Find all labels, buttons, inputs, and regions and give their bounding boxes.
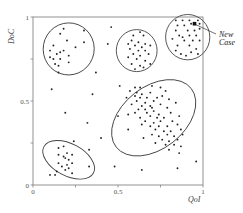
x-tick-label: 1 bbox=[201, 188, 205, 196]
data-point bbox=[195, 35, 197, 37]
data-point bbox=[144, 120, 146, 122]
data-point bbox=[68, 159, 70, 161]
outlier-point bbox=[141, 169, 143, 171]
data-point bbox=[168, 98, 170, 100]
data-point bbox=[137, 108, 139, 110]
data-point bbox=[194, 29, 196, 31]
data-point bbox=[139, 55, 141, 57]
data-point bbox=[117, 115, 119, 117]
data-point bbox=[158, 135, 160, 137]
data-point bbox=[197, 19, 199, 21]
data-point bbox=[58, 147, 60, 149]
data-point bbox=[183, 40, 185, 42]
data-point bbox=[139, 65, 141, 67]
data-point bbox=[63, 155, 65, 157]
data-point bbox=[71, 162, 73, 164]
data-point bbox=[144, 43, 146, 45]
data-point bbox=[156, 117, 158, 119]
data-point bbox=[126, 97, 128, 99]
data-point bbox=[132, 53, 134, 55]
data-point bbox=[64, 169, 66, 171]
data-point bbox=[141, 46, 143, 48]
data-point bbox=[144, 60, 146, 62]
data-point bbox=[178, 152, 180, 154]
data-point bbox=[153, 110, 155, 112]
data-point bbox=[144, 108, 146, 110]
data-point bbox=[134, 68, 136, 70]
data-point bbox=[195, 48, 197, 50]
data-point bbox=[136, 92, 138, 94]
data-point bbox=[165, 144, 167, 146]
cluster-ellipse-top-middle bbox=[116, 30, 157, 72]
x-tick-label: 0 bbox=[31, 188, 35, 196]
data-point bbox=[146, 97, 148, 99]
data-point bbox=[199, 40, 201, 42]
data-point bbox=[156, 97, 158, 99]
data-point bbox=[129, 90, 131, 92]
data-point bbox=[59, 51, 61, 53]
data-point bbox=[52, 45, 54, 47]
data-point bbox=[137, 50, 139, 52]
data-point bbox=[56, 53, 58, 55]
data-point bbox=[143, 35, 145, 37]
data-point bbox=[178, 115, 180, 117]
data-point bbox=[131, 40, 133, 42]
data-point bbox=[144, 102, 146, 104]
data-point bbox=[170, 112, 172, 114]
y-tick-label: 1 bbox=[26, 14, 30, 22]
data-point bbox=[68, 55, 70, 57]
data-point bbox=[129, 48, 131, 50]
data-points bbox=[49, 19, 201, 175]
data-point bbox=[197, 53, 199, 55]
data-point bbox=[75, 46, 77, 48]
data-point bbox=[182, 19, 184, 21]
x-axis-label: QoI bbox=[188, 195, 201, 204]
data-point bbox=[160, 87, 162, 89]
data-point bbox=[63, 145, 65, 147]
data-point bbox=[166, 107, 168, 109]
data-point bbox=[71, 154, 73, 156]
annotation-label-line2: Case bbox=[219, 38, 235, 47]
outlier-point bbox=[195, 161, 197, 163]
data-point bbox=[58, 154, 60, 156]
data-point bbox=[134, 95, 136, 97]
data-point bbox=[54, 63, 56, 65]
data-point bbox=[134, 87, 136, 89]
outlier-point bbox=[95, 71, 97, 73]
cluster-ellipse-center-large bbox=[97, 64, 210, 172]
new-case-marker bbox=[193, 22, 197, 26]
data-point bbox=[146, 112, 148, 114]
data-point bbox=[49, 50, 51, 52]
x-tick-label: 0.5 bbox=[114, 188, 123, 196]
data-point bbox=[59, 58, 61, 60]
data-point bbox=[158, 113, 160, 115]
data-point bbox=[163, 130, 165, 132]
data-point bbox=[177, 24, 179, 26]
data-point bbox=[199, 28, 201, 30]
data-point bbox=[137, 41, 139, 43]
data-point bbox=[132, 35, 134, 37]
data-point bbox=[127, 129, 129, 131]
data-point bbox=[54, 174, 56, 176]
data-point bbox=[58, 65, 60, 67]
data-point bbox=[170, 130, 172, 132]
data-point bbox=[61, 166, 63, 168]
data-point bbox=[149, 125, 151, 127]
outlier-point bbox=[64, 112, 66, 114]
data-point bbox=[141, 124, 143, 126]
data-point bbox=[73, 140, 75, 142]
data-point bbox=[171, 38, 173, 40]
data-point bbox=[153, 122, 155, 124]
scatter-chart: 00.5100.51 NewCase QoI DoC bbox=[0, 0, 243, 213]
outlier-point bbox=[86, 122, 88, 124]
data-point bbox=[158, 125, 160, 127]
data-point bbox=[175, 50, 177, 52]
data-point bbox=[163, 117, 165, 119]
data-point bbox=[180, 53, 182, 55]
new-case-annotation: NewCase bbox=[193, 22, 236, 47]
data-point bbox=[188, 19, 190, 21]
outlier-point bbox=[177, 167, 179, 169]
data-point bbox=[139, 87, 141, 89]
data-point bbox=[49, 56, 51, 58]
data-point bbox=[199, 23, 201, 25]
